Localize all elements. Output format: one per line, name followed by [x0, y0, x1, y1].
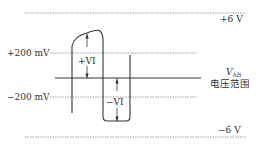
arrowhead-up-icon: [85, 34, 88, 39]
arrowhead-up-icon: [115, 79, 118, 84]
arrowhead-down-icon: [115, 117, 118, 122]
pos-vi-label: +VI: [78, 56, 96, 66]
neg-rail-label: −6 V: [218, 125, 241, 135]
neg-vi-label: −VI: [106, 97, 124, 107]
vab-label: VAB: [226, 67, 242, 78]
voltage-range-label: 电压范围: [210, 78, 250, 89]
neg-threshold-label: −200 mV: [7, 92, 50, 102]
arrowhead-down-icon: [85, 74, 88, 79]
differential-voltage-diagram: +6 V +200 mV −200 mV −6 V +VI −VI VAB 电压…: [0, 0, 256, 146]
waveform: [72, 30, 130, 121]
pos-rail-label: +6 V: [220, 14, 243, 24]
pos-threshold-label: +200 mV: [7, 48, 50, 58]
